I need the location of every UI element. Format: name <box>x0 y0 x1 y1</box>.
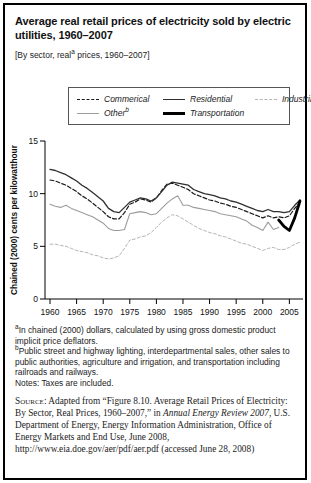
x-tick-label: 1990 <box>200 307 219 317</box>
price-line-chart: 0510151960196519701975198019851990199520… <box>5 133 305 323</box>
legend-label-transportation: Transportation <box>190 108 244 118</box>
legend-item-commercial: Commerical <box>77 94 163 104</box>
residential-line-sample <box>163 99 185 100</box>
legend-label-residential: Residential <box>190 94 232 104</box>
x-tick-label: 1985 <box>174 307 193 317</box>
legend-label-commercial: Commerical <box>104 94 149 104</box>
footnote-a-text: In chained (2000) dollars, calculated by… <box>15 325 276 346</box>
x-tick-label: 1995 <box>227 307 246 317</box>
transportation-thick-line-sample <box>163 112 185 115</box>
x-tick-label: 1970 <box>94 307 113 317</box>
source-block: Source: Adapted from “Figure 8.10. Avera… <box>15 395 299 455</box>
x-tick-label: 2000 <box>253 307 272 317</box>
legend-text: Commerical <box>104 94 149 104</box>
x-tick-label: 1960 <box>41 307 60 317</box>
other-line-sample <box>77 113 99 114</box>
series-other <box>50 196 279 231</box>
legend-text: Transportation <box>190 108 244 118</box>
footnote-a: aIn chained (2000) dollars, calculated b… <box>15 325 301 346</box>
legend-item-residential: Residential <box>163 94 255 104</box>
subtitle-text: [By sector, real <box>15 50 71 60</box>
legend-text: Other <box>104 108 125 118</box>
y-axis-title: Chained (2000) cents per kilowatthour <box>9 144 19 295</box>
source-label: Source: <box>15 396 46 406</box>
series-industrial <box>50 215 300 259</box>
industrial-dashed-line-sample <box>255 99 277 100</box>
y-tick-label: 15 <box>29 136 39 146</box>
footnote-b-text: Public street and highway lighting, inte… <box>15 346 290 377</box>
figure-page: Average real retail prices of electricit… <box>0 0 311 483</box>
y-tick-label: 5 <box>33 241 38 251</box>
y-tick-label: 10 <box>29 189 39 199</box>
legend-text: Residential <box>190 94 232 104</box>
source-publication-title: Annual Energy Review 2007 <box>163 408 269 418</box>
figure-subtitle: [By sector, reala prices, 1960–2007] <box>15 50 295 60</box>
series-commercial <box>50 180 300 219</box>
chart-legend: Commerical Residential Industrial Otherb… <box>68 87 290 125</box>
x-tick-label: 1980 <box>147 307 166 317</box>
notes-line: Notes: Taxes are included. <box>15 378 301 389</box>
figure-title: Average real retail prices of electricit… <box>15 15 299 42</box>
x-tick-label: 2005 <box>280 307 299 317</box>
legend-item-transportation: Transportation <box>163 108 255 118</box>
y-tick-label: 0 <box>33 294 38 304</box>
x-tick-label: 1975 <box>120 307 139 317</box>
x-tick-label: 1965 <box>67 307 86 317</box>
figure-card: Average real retail prices of electricit… <box>3 3 307 480</box>
footnote-b: bPublic street and highway lighting, int… <box>15 346 301 378</box>
footnotes-block: aIn chained (2000) dollars, calculated b… <box>15 325 301 388</box>
subtitle-text-after: prices, 1960–2007] <box>75 50 150 60</box>
legend-item-other: Otherb <box>77 108 163 118</box>
legend-sup: b <box>125 106 129 113</box>
legend-label-industrial: Industrial <box>282 94 311 104</box>
legend-text: Industrial <box>282 94 311 104</box>
commercial-dashed-line-sample <box>77 99 99 100</box>
legend-item-industrial: Industrial <box>255 94 311 104</box>
series-residential <box>50 169 300 212</box>
legend-label-other: Otherb <box>104 108 129 118</box>
